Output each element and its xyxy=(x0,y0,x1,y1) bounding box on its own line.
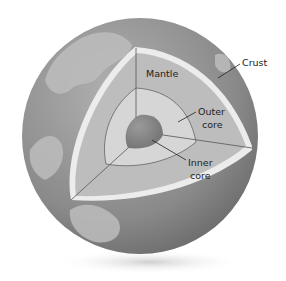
label-inner-core-2: core xyxy=(190,170,211,181)
label-crust: Crust xyxy=(242,57,268,68)
label-inner-core-1: Inner xyxy=(188,157,213,168)
label-mantle: Mantle xyxy=(146,68,178,79)
earth-diagram: Crust Mantle Outer core Inner core xyxy=(0,0,286,281)
globe-shadow xyxy=(55,250,245,274)
label-outer-core-2: core xyxy=(202,119,223,130)
label-outer-core-1: Outer xyxy=(198,106,225,117)
